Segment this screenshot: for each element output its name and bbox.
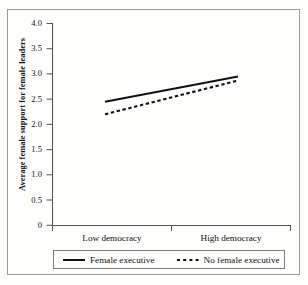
y-axis-tick-label-0.5: 0.5 bbox=[16, 196, 42, 205]
legend: Female executive No female executive bbox=[53, 250, 285, 269]
y-axis-tick-label-2.0: 2.0 bbox=[16, 120, 42, 129]
legend-entry-female-executive: Female executive bbox=[63, 255, 155, 265]
x-axis-tick-label-low-democracy: Low democracy bbox=[62, 233, 162, 243]
legend-entry-no-female-executive: No female executive bbox=[177, 255, 280, 265]
legend-label-female-executive: Female executive bbox=[90, 255, 155, 265]
y-axis-tick-label-4.0: 4.0 bbox=[16, 19, 42, 28]
y-axis-tick-label-2.5: 2.5 bbox=[16, 95, 42, 104]
y-axis-tick-label-3.0: 3.0 bbox=[16, 69, 42, 78]
y-axis-tick-label-1.5: 1.5 bbox=[16, 145, 42, 154]
legend-swatch-dashed-line bbox=[177, 255, 199, 265]
legend-swatch-solid-line bbox=[63, 255, 85, 265]
y-axis-tick-label-1.0: 1.0 bbox=[16, 170, 42, 179]
x-axis-tick-label-high-democracy: High democracy bbox=[181, 233, 281, 243]
figure-container: Average female support for female leader… bbox=[0, 0, 308, 285]
y-axis-tick-label-0: 0 bbox=[16, 221, 42, 230]
y-axis-tick-label-3.5: 3.5 bbox=[16, 44, 42, 53]
legend-label-no-female-executive: No female executive bbox=[204, 255, 280, 265]
